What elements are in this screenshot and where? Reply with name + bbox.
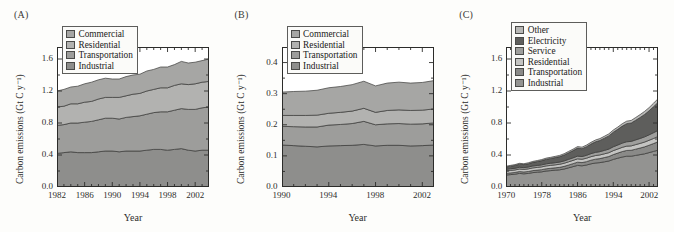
area-band-industrial bbox=[57, 149, 209, 187]
legend-item: Other bbox=[515, 25, 582, 36]
panel-a: (A) Carbon emissions (Gt C y⁻¹) Year 0.0… bbox=[0, 0, 225, 232]
y-tick-label: 0.8 bbox=[25, 117, 53, 127]
legend-label: Industrial bbox=[303, 61, 339, 72]
x-tick-label: 1986 bbox=[562, 190, 594, 200]
legend-swatch-icon bbox=[515, 37, 524, 45]
legend-swatch-icon bbox=[515, 68, 524, 76]
y-tick-label: 0.3 bbox=[250, 88, 278, 98]
chart-legend: OtherElectricityServiceResidentialTransp… bbox=[511, 22, 587, 91]
axis-label-y-c: Carbon emissions (Gt C y⁻¹) bbox=[459, 74, 470, 184]
axis-label-x-c: Year bbox=[506, 212, 658, 223]
legend-label: Transportation bbox=[528, 67, 582, 78]
panel-c: (C) Carbon emissions (Gt C y⁻¹) Year 0.0… bbox=[449, 0, 674, 232]
y-tick-label: 1.2 bbox=[25, 85, 53, 95]
legend-item: Residential bbox=[291, 40, 358, 51]
legend-label: Residential bbox=[303, 40, 345, 51]
x-tick-label: 1978 bbox=[526, 190, 558, 200]
panel-label-c: (C) bbox=[459, 9, 473, 20]
legend-label: Other bbox=[528, 25, 549, 36]
y-tick-label: 0.8 bbox=[474, 117, 502, 127]
legend-swatch-icon bbox=[291, 62, 300, 70]
y-tick-label: 0.4 bbox=[474, 149, 502, 159]
legend-swatch-icon bbox=[515, 79, 524, 87]
figure-three-panel-stacked-area: (A) Carbon emissions (Gt C y⁻¹) Year 0.0… bbox=[0, 0, 674, 232]
panel-label-b: (B) bbox=[235, 9, 249, 20]
legend-item: Transportation bbox=[515, 67, 582, 78]
y-tick-label: 1.2 bbox=[474, 85, 502, 95]
legend-swatch-icon bbox=[291, 51, 300, 59]
x-tick-label: 1994 bbox=[597, 190, 629, 200]
legend-item: Transportation bbox=[291, 50, 358, 61]
axis-label-x-a: Year bbox=[57, 212, 209, 223]
x-tick-label: 2002 bbox=[633, 190, 665, 200]
legend-swatch-icon bbox=[291, 30, 300, 38]
legend-label: Residential bbox=[79, 40, 121, 51]
area-band-industrial bbox=[282, 144, 434, 187]
panel-label-a: (A) bbox=[14, 9, 28, 20]
y-tick-label: 0.2 bbox=[250, 119, 278, 129]
x-tick-label: 1998 bbox=[359, 190, 391, 200]
legend-swatch-icon bbox=[515, 58, 524, 66]
legend-label: Industrial bbox=[79, 61, 115, 72]
x-tick-label: 1994 bbox=[312, 190, 344, 200]
x-tick-label: 1990 bbox=[266, 190, 298, 200]
legend-item: Electricity bbox=[515, 36, 582, 47]
axis-label-y-a: Carbon emissions (Gt C y⁻¹) bbox=[14, 74, 25, 184]
x-tick-label: 2002 bbox=[406, 190, 438, 200]
legend-item: Service bbox=[515, 46, 582, 57]
legend-item: Residential bbox=[66, 40, 133, 51]
legend-label: Electricity bbox=[528, 36, 567, 47]
chart-legend: CommercialResidentialTransportationIndus… bbox=[62, 26, 138, 74]
legend-swatch-icon bbox=[291, 41, 300, 49]
legend-item: Transportation bbox=[66, 50, 133, 61]
legend-item: Commercial bbox=[66, 29, 133, 40]
legend-label: Service bbox=[528, 46, 556, 57]
x-tick-label: 2002 bbox=[179, 190, 211, 200]
y-tick-label: 1.6 bbox=[25, 53, 53, 63]
legend-label: Industrial bbox=[528, 78, 564, 89]
legend-swatch-icon bbox=[66, 41, 75, 49]
x-tick-label: 1970 bbox=[490, 190, 522, 200]
legend-swatch-icon bbox=[66, 30, 75, 38]
legend-swatch-icon bbox=[515, 47, 524, 55]
legend-item: Industrial bbox=[66, 61, 133, 72]
axis-label-x-b: Year bbox=[282, 212, 434, 223]
legend-swatch-icon bbox=[515, 26, 524, 34]
legend-label: Commercial bbox=[303, 29, 349, 40]
legend-label: Transportation bbox=[303, 50, 357, 61]
legend-label: Commercial bbox=[79, 29, 125, 40]
legend-item: Industrial bbox=[515, 78, 582, 89]
legend-swatch-icon bbox=[66, 51, 75, 59]
legend-label: Residential bbox=[528, 57, 570, 68]
y-tick-label: 0.4 bbox=[25, 149, 53, 159]
chart-legend: CommercialResidentialTransportationIndus… bbox=[287, 26, 363, 74]
panel-b: (B) Carbon emissions (Gt C y⁻¹) Year 0.0… bbox=[225, 0, 450, 232]
legend-item: Residential bbox=[515, 57, 582, 68]
legend-swatch-icon bbox=[66, 62, 75, 70]
legend-item: Industrial bbox=[291, 61, 358, 72]
legend-item: Commercial bbox=[291, 29, 358, 40]
y-tick-label: 0.4 bbox=[250, 57, 278, 67]
y-tick-label: 1.6 bbox=[474, 53, 502, 63]
axis-label-y-b: Carbon emissions (Gt C y⁻¹) bbox=[235, 74, 246, 184]
y-tick-label: 0.1 bbox=[250, 150, 278, 160]
legend-label: Transportation bbox=[79, 50, 133, 61]
